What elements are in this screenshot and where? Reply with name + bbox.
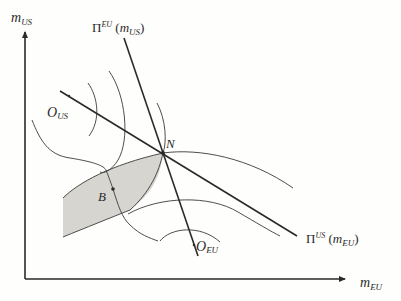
nash-point [161,151,165,155]
bargain-point [111,187,115,191]
eu-line-tick [193,244,196,247]
us-indifference-curve-2 [100,71,125,173]
eu-reaction-function-label: ΠEU (mUS) [92,20,144,37]
bargain-point-label: B [98,189,106,204]
y-axis-label: mUS [11,10,33,27]
pareto-improvement-region [63,153,163,237]
eu-origin-label: OEU [196,239,219,255]
trade-war-diagram: mUS mEU ΠEU (mUS) ΠUS (mEU) N B OUS OEU [0,0,401,301]
x-axis-label: mEU [360,275,383,292]
us-line-tick [68,95,70,97]
us-reaction-function-label: ΠUS (mEU) [306,231,359,248]
us-origin-label: OUS [47,105,69,121]
nash-point-label: N [165,136,176,151]
eu-reaction-function-line [124,38,198,256]
eu-indifference-curve-2 [128,200,280,236]
